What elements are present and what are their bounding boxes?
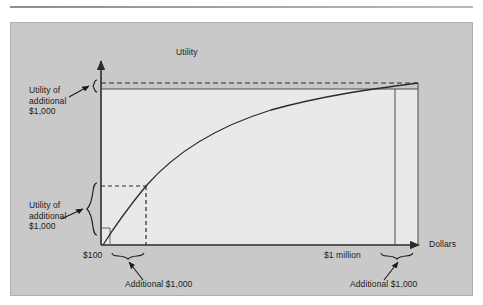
header-rule	[10, 6, 473, 8]
brace-utility-bottom	[87, 183, 97, 235]
utility-curve	[103, 83, 418, 245]
brace-utility-top	[93, 80, 97, 92]
brace-additional-left	[112, 253, 144, 259]
annotation-utility-bottom: Utility of additional $1,000	[29, 200, 66, 232]
annotation-additional-right: Additional $1,000	[350, 279, 417, 290]
arrow-utility-top	[69, 86, 89, 97]
annotation-additional-left: Additional $1,000	[125, 279, 192, 290]
x-axis-label: Dollars	[429, 239, 456, 250]
figure-drawing	[11, 23, 474, 297]
y-axis-label: Utility	[176, 47, 197, 58]
x-tick-label-low: $100	[83, 250, 102, 261]
arrow-additional-left	[129, 262, 143, 280]
arrow-additional-right	[384, 262, 398, 280]
x-tick-label-high: $1 million	[324, 250, 361, 261]
figure-panel: Utility Dollars Utility of additional $1…	[10, 22, 473, 296]
brace-additional-right	[381, 253, 413, 259]
annotation-utility-top: Utility of additional $1,000	[29, 85, 66, 117]
